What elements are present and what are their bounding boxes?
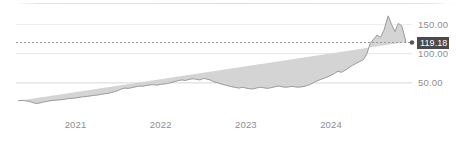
y-axis-label-50: 50.00: [418, 77, 443, 88]
current-price-badge: 119.18: [417, 37, 449, 49]
y-axis-label-100: 100.00: [418, 48, 448, 59]
x-axis-label-2023: 2023: [235, 119, 257, 130]
x-axis-label-2022: 2022: [150, 119, 172, 130]
x-axis-label-2024: 2024: [320, 119, 342, 130]
x-axis-label-2021: 2021: [65, 119, 87, 130]
stock-price-sparkline-widget: 150.00 100.00 50.00 2021 2022 2023 2024 …: [0, 0, 461, 144]
price-area-fill: [19, 16, 406, 104]
y-axis-label-150: 150.00: [418, 19, 448, 30]
current-price-marker: [410, 40, 414, 44]
